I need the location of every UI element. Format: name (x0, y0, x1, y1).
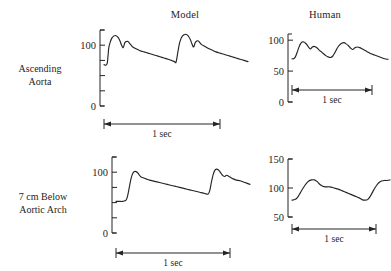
waveform-trace-model-7cm-below-aortic-arch (116, 169, 250, 201)
y-axis-model-7cm-below-aortic-arch: 0100 (92, 157, 117, 239)
chart-svg-human-7cm-below-aortic-arch: 50100150 1 sec (258, 155, 390, 260)
row-label-ascending-aorta: Ascending Aorta (2, 62, 78, 88)
y-axis-human-ascending-aorta: 050100 (268, 34, 293, 108)
scalebar-model-ascending-aorta: 1 sec (104, 119, 220, 139)
scalebar-label: 1 sec (163, 258, 182, 268)
chart-svg-model-7cm-below-aortic-arch: 0100 1 sec (90, 155, 250, 267)
scalebar-human-ascending-aorta: 1 sec (292, 85, 372, 105)
waveform-trace-human-7cm-below-aortic-arch (292, 180, 390, 200)
chart-panel-human-ascending-aorta: 050100 1 sec (262, 28, 388, 138)
y-tick-label: 100 (80, 40, 96, 51)
chart-panel-human-7cm-below-aortic-arch: 50100150 1 sec (258, 155, 390, 260)
chart-panel-model-7cm-below-aortic-arch: 0100 1 sec (90, 155, 250, 267)
scalebar-model-7cm-below-aortic-arch: 1 sec (116, 248, 230, 268)
scalebar-human-7cm-below-aortic-arch: 1 sec (292, 224, 376, 244)
y-tick-label: 100 (92, 167, 108, 178)
waveform-trace-model-ascending-aorta (104, 34, 248, 65)
y-tick-label: 0 (103, 228, 108, 239)
chart-svg-model-ascending-aorta: 0100 1 sec (78, 28, 248, 138)
row-label-7cm-below-aortic-arch: 7 cm Below Aortic Arch (0, 190, 86, 216)
row-label-below-arch-line2: Aortic Arch (19, 204, 67, 215)
y-tick-label: 150 (268, 154, 284, 165)
row-label-ascending-aorta-line1: Ascending (19, 63, 62, 74)
y-tick-label: 0 (91, 101, 96, 112)
scalebar-label: 1 sec (324, 234, 343, 244)
row-label-ascending-aorta-line2: Aorta (29, 76, 52, 87)
y-tick-label: 100 (268, 183, 284, 194)
y-tick-label: 50 (274, 212, 285, 223)
y-tick-label: 0 (279, 97, 284, 108)
y-axis-human-7cm-below-aortic-arch: 50100150 (268, 154, 293, 223)
row-label-below-arch-line1: 7 cm Below (19, 191, 67, 202)
chart-panel-model-ascending-aorta: 0100 1 sec (78, 28, 248, 138)
y-axis-model-ascending-aorta: 0100 (80, 30, 105, 112)
column-header-human: Human (280, 9, 370, 20)
scalebar-label: 1 sec (152, 129, 171, 139)
scalebar-label: 1 sec (322, 95, 341, 105)
y-tick-label: 100 (268, 35, 284, 46)
pressure-waveform-figure: Model Human Ascending Aorta 7 cm Below A… (0, 0, 391, 271)
y-tick-label: 50 (274, 66, 285, 77)
column-header-model: Model (130, 9, 240, 20)
waveform-trace-human-ascending-aorta (292, 42, 388, 60)
chart-svg-human-ascending-aorta: 050100 1 sec (262, 28, 388, 138)
